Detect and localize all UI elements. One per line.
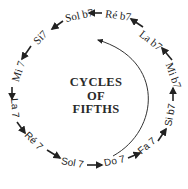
arrow-icon xyxy=(52,21,63,29)
title-line-1: CYCLES xyxy=(56,76,136,90)
circle-of-fifths-diagram: Ré b7Sol b7Si7Mi 7La 7Ré 7Sol 7Do 7Fa 7S… xyxy=(0,0,188,189)
title-line-3: FIFTHS xyxy=(56,103,136,117)
chord-label: La 7 xyxy=(8,98,20,118)
arrow-icon xyxy=(22,46,31,59)
arrow-icon xyxy=(17,122,25,133)
arrow-icon xyxy=(47,150,60,158)
title-line-2: OF xyxy=(56,90,136,104)
arrow-icon xyxy=(128,153,140,158)
arrow-icon xyxy=(131,19,143,27)
arrow-icon xyxy=(162,48,172,60)
diagram-title: CYCLES OF FIFTHS xyxy=(56,76,136,117)
arrow-icon xyxy=(158,129,166,141)
